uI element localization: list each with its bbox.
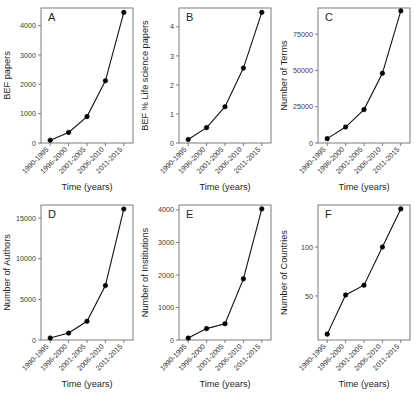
data-point: [85, 114, 90, 119]
series-line: [188, 209, 262, 338]
data-point: [223, 321, 228, 326]
series-line: [327, 209, 401, 334]
y-tick-label: 2: [170, 81, 174, 90]
y-tick-label: 0: [32, 336, 36, 345]
data-point: [325, 136, 330, 141]
data-point: [48, 336, 53, 341]
panel-a: 010002000300040001990-19951996-20002001-…: [0, 0, 138, 196]
series-line: [50, 209, 124, 338]
x-axis-title: Time (years): [338, 182, 389, 192]
data-point: [186, 137, 191, 142]
x-axis-title: Time (years): [199, 182, 250, 192]
y-tick-label: 4000: [20, 21, 36, 30]
y-axis-title: Number of Institutions: [140, 227, 150, 317]
data-point: [85, 319, 90, 324]
x-axis-title: Time (years): [61, 379, 112, 389]
y-tick-label: 5000: [20, 295, 36, 304]
y-axis-title: Number of Authors: [2, 234, 12, 311]
y-tick-label: 0: [170, 336, 174, 345]
y-axis-title: Number of Countries: [279, 230, 289, 315]
panel-b-plot: 012341990-19951996-20002001-20052006-201…: [138, 0, 276, 196]
series-line: [50, 12, 124, 140]
data-point: [204, 125, 209, 130]
plot-frame: [179, 8, 271, 143]
data-point: [122, 207, 127, 212]
data-point: [103, 78, 108, 83]
y-tick-label: 2000: [158, 271, 174, 280]
panel-letter: E: [186, 208, 193, 220]
data-point: [223, 104, 228, 109]
panel-a-plot: 010002000300040001990-19951996-20002001-…: [0, 0, 138, 196]
x-axis-title: Time (years): [199, 379, 250, 389]
panel-e-plot: 010002000300040001990-19951996-20002001-…: [138, 197, 276, 393]
panel-d-plot: 0500010000150001990-19951996-20002001-20…: [0, 197, 138, 393]
data-point: [66, 331, 71, 336]
panel-letter: D: [48, 208, 56, 220]
y-tick-label: 100: [301, 243, 313, 252]
y-tick-label: 3: [170, 52, 174, 61]
panel-letter: A: [48, 11, 56, 23]
data-point: [325, 332, 330, 337]
y-tick-label: 75000: [293, 30, 313, 39]
data-point: [241, 66, 246, 71]
data-point: [399, 207, 404, 212]
panel-f: 501001990-19951996-20002001-20052006-201…: [277, 197, 415, 393]
panel-b: 012341990-19951996-20002001-20052006-201…: [138, 0, 276, 196]
x-axis-title: Time (years): [61, 182, 112, 192]
y-tick-label: 25000: [293, 102, 313, 111]
panel-e: 010002000300040001990-19951996-20002001-…: [138, 197, 276, 393]
y-tick-label: 50000: [293, 66, 313, 75]
data-point: [260, 207, 265, 212]
panel-d: 0500010000150001990-19951996-20002001-20…: [0, 197, 138, 393]
series-line: [188, 12, 262, 139]
panel-c: 02500050000750001990-19951996-20002001-2…: [277, 0, 415, 196]
y-tick-label: 2000: [20, 80, 36, 89]
panel-f-plot: 501001990-19951996-20002001-20052006-201…: [277, 197, 415, 393]
data-point: [204, 326, 209, 331]
multi-panel-figure: 010002000300040001990-19951996-20002001-…: [0, 0, 415, 393]
y-tick-label: 0: [170, 139, 174, 148]
y-axis-title: BEF % Life science papers: [140, 20, 150, 131]
data-point: [399, 9, 404, 14]
y-tick-label: 0: [32, 139, 36, 148]
data-point: [103, 283, 108, 288]
y-tick-label: 4000: [158, 205, 174, 214]
y-tick-label: 15000: [16, 214, 36, 223]
data-point: [122, 10, 127, 15]
data-point: [66, 130, 71, 135]
data-point: [186, 336, 191, 341]
plot-frame: [318, 205, 410, 340]
y-tick-label: 0: [309, 139, 313, 148]
y-tick-label: 50: [305, 292, 313, 301]
panel-letter: B: [186, 11, 193, 23]
data-point: [48, 138, 53, 143]
y-tick-label: 1000: [158, 303, 174, 312]
panel-letter: F: [325, 208, 332, 220]
data-point: [260, 10, 265, 15]
data-point: [343, 125, 348, 130]
y-tick-label: 10000: [16, 254, 36, 263]
data-point: [241, 277, 246, 282]
y-axis-title: Number of Terms: [279, 40, 289, 111]
x-axis-title: Time (years): [338, 379, 389, 389]
panel-letter: C: [325, 11, 333, 23]
y-tick-label: 1000: [20, 109, 36, 118]
y-tick-label: 3000: [20, 51, 36, 60]
series-line: [327, 11, 401, 139]
data-point: [380, 71, 385, 76]
y-tick-label: 4: [170, 22, 174, 31]
data-point: [343, 293, 348, 298]
data-point: [362, 283, 367, 288]
y-axis-title: BEF papers: [2, 51, 12, 100]
data-point: [362, 107, 367, 112]
panel-c-plot: 02500050000750001990-19951996-20002001-2…: [277, 0, 415, 196]
y-tick-label: 3000: [158, 238, 174, 247]
y-tick-label: 1: [170, 110, 174, 119]
data-point: [380, 245, 385, 250]
